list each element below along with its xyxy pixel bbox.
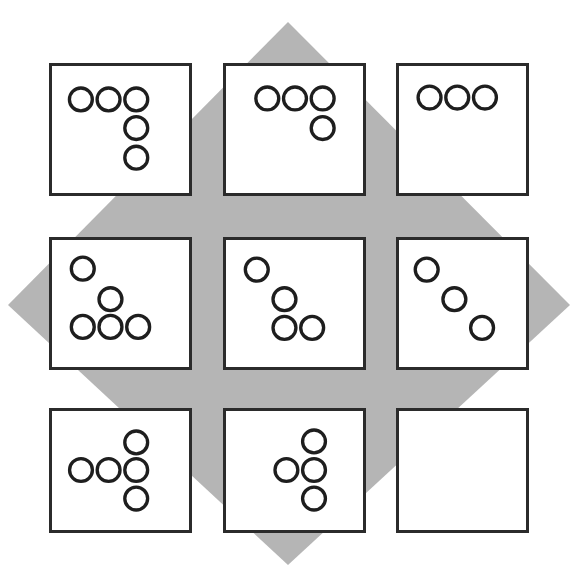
circle-icon	[443, 288, 466, 311]
circle-icon	[301, 316, 324, 339]
matrix-grid	[0, 0, 576, 576]
circle-icon	[256, 87, 279, 110]
circle-icon	[284, 87, 307, 110]
circle-icon	[97, 88, 120, 111]
circle-icon	[303, 459, 326, 482]
matrix-cell-r1c2[interactable]	[223, 63, 366, 196]
circle-icon	[127, 315, 150, 338]
circle-icon	[275, 459, 298, 482]
cell-circles-group	[399, 66, 526, 193]
circle-icon	[71, 315, 94, 338]
cell-circles-group	[52, 66, 189, 193]
circle-icon	[99, 315, 122, 338]
matrix-cell-r1c1[interactable]	[49, 63, 192, 196]
circle-icon	[303, 487, 326, 510]
circle-icon	[273, 316, 296, 339]
circle-icon	[471, 316, 494, 339]
circle-icon	[125, 459, 148, 482]
matrix-cell-r3c1[interactable]	[49, 408, 192, 533]
circle-icon	[311, 117, 334, 140]
matrix-cell-r2c3[interactable]	[396, 237, 529, 370]
cell-circles-group	[399, 240, 526, 367]
cell-circles-group	[226, 240, 363, 367]
cell-circles-group	[226, 411, 363, 530]
matrix-cell-r2c1[interactable]	[49, 237, 192, 370]
circle-icon	[245, 258, 268, 281]
circle-icon	[446, 86, 469, 109]
matrix-reasoning-puzzle	[0, 0, 576, 576]
circle-icon	[125, 487, 148, 510]
circle-icon	[473, 86, 496, 109]
circle-icon	[71, 257, 94, 280]
circle-icon	[70, 459, 93, 482]
circle-icon	[125, 117, 148, 140]
circle-icon	[125, 431, 148, 454]
circle-icon	[99, 288, 122, 311]
matrix-cell-r3c2[interactable]	[223, 408, 366, 533]
circle-icon	[69, 88, 92, 111]
circle-icon	[125, 146, 148, 169]
matrix-cell-r2c2[interactable]	[223, 237, 366, 370]
circle-icon	[418, 86, 441, 109]
cell-circles-group	[52, 411, 189, 530]
cell-circles-group	[226, 66, 363, 193]
circle-icon	[415, 258, 438, 281]
matrix-cell-r1c3[interactable]	[396, 63, 529, 196]
circle-icon	[273, 288, 296, 311]
circle-icon	[311, 87, 334, 110]
circle-icon	[303, 430, 326, 453]
circle-icon	[97, 459, 120, 482]
matrix-cell-r3c3[interactable]	[396, 408, 529, 533]
cell-circles-group	[399, 411, 526, 530]
circle-icon	[125, 88, 148, 111]
cell-circles-group	[52, 240, 189, 367]
